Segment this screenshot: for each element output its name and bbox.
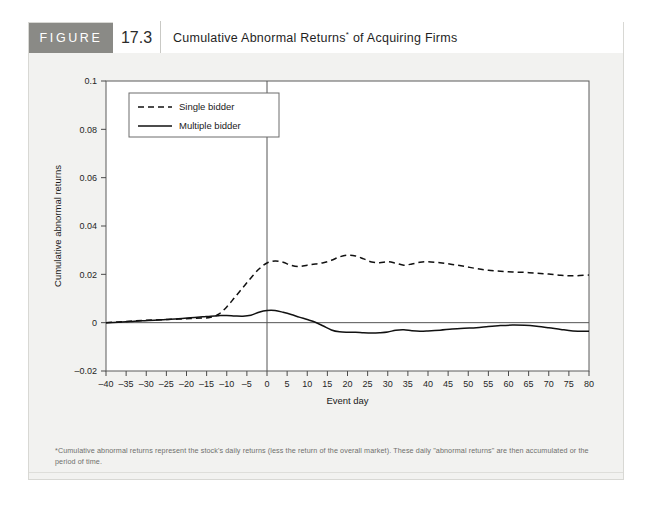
figure-footnote: *Cumulative abnormal returns represent t… xyxy=(55,445,603,467)
figure-title-suffix: of Acquiring Firms xyxy=(349,32,457,46)
chart-panel: –0.0200.020.040.060.080.1–40–35–30–25–20… xyxy=(29,53,623,429)
x-tick-label: –5 xyxy=(242,379,252,389)
x-tick-label: 70 xyxy=(544,379,554,389)
figure-container: FIGURE 17.3 Cumulative Abnormal Returns*… xyxy=(28,22,624,480)
x-tick-label: 40 xyxy=(423,379,433,389)
x-tick-label: –10 xyxy=(219,379,234,389)
y-tick-label: 0.02 xyxy=(79,270,97,280)
legend-label-1: Single bidder xyxy=(179,101,234,112)
x-tick-label: 30 xyxy=(383,379,393,389)
x-tick-label: 55 xyxy=(483,379,493,389)
x-tick-label: 0 xyxy=(264,379,269,389)
y-tick-label: –0.02 xyxy=(74,366,97,376)
x-tick-label: 75 xyxy=(564,379,574,389)
figure-title-container: Cumulative Abnormal Returns* of Acquirin… xyxy=(161,21,623,55)
x-tick-label: 25 xyxy=(363,379,373,389)
x-tick-label: 10 xyxy=(302,379,312,389)
x-tick-label: –35 xyxy=(119,379,134,389)
x-tick-label: 15 xyxy=(322,379,332,389)
x-tick-label: 5 xyxy=(285,379,290,389)
x-tick-label: 80 xyxy=(584,379,594,389)
y-tick-label: 0.04 xyxy=(79,221,97,231)
figure-tag-label: FIGURE xyxy=(29,23,113,53)
footnote-divider xyxy=(29,472,623,473)
x-tick-label: 50 xyxy=(463,379,473,389)
figure-title: Cumulative Abnormal Returns* of Acquirin… xyxy=(173,30,457,45)
y-tick-label: 0.1 xyxy=(84,76,97,86)
figure-header: FIGURE 17.3 Cumulative Abnormal Returns*… xyxy=(29,23,623,53)
y-tick-label: 0.08 xyxy=(79,125,97,135)
x-tick-label: –20 xyxy=(179,379,194,389)
x-tick-label: –15 xyxy=(199,379,214,389)
x-tick-label: 45 xyxy=(443,379,453,389)
y-tick-label: 0 xyxy=(92,318,97,328)
cumulative-abnormal-returns-chart: –0.0200.020.040.060.080.1–40–35–30–25–20… xyxy=(29,53,625,431)
x-axis-title: Event day xyxy=(326,395,368,406)
x-tick-label: 20 xyxy=(342,379,352,389)
figure-number: 17.3 xyxy=(113,21,161,55)
x-tick-label: 35 xyxy=(403,379,413,389)
y-tick-label: 0.06 xyxy=(79,173,97,183)
x-tick-label: –25 xyxy=(159,379,174,389)
x-tick-label: 60 xyxy=(503,379,513,389)
x-tick-label: 65 xyxy=(524,379,534,389)
legend-label-2: Multiple bidder xyxy=(179,120,241,131)
figure-title-main: Cumulative Abnormal Returns xyxy=(173,32,346,46)
y-axis-title: Cumulative abnormal returns xyxy=(52,165,63,287)
x-tick-label: –40 xyxy=(98,379,113,389)
x-tick-label: –30 xyxy=(139,379,154,389)
